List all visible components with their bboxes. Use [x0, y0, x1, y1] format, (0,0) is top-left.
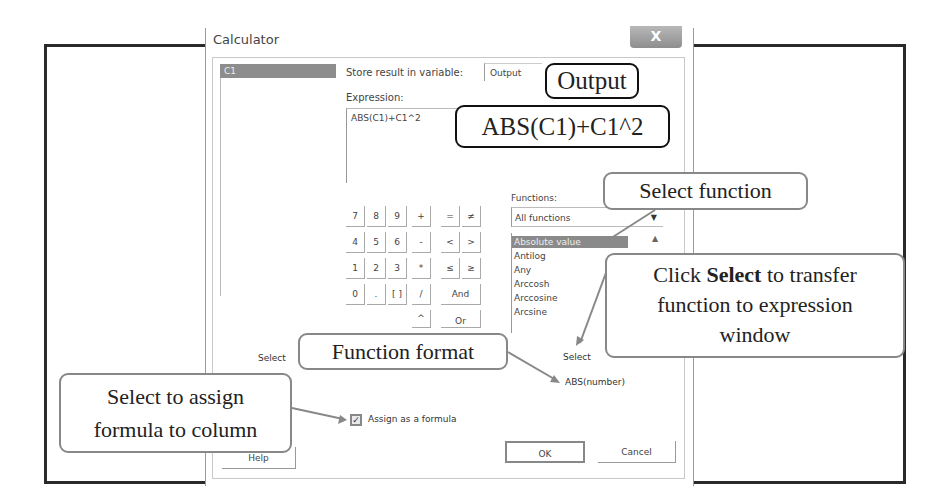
key-equals[interactable]: =	[441, 206, 460, 227]
function-item-arcsine[interactable]: Arcsine	[514, 306, 547, 318]
function-item-antilog[interactable]: Antilog	[514, 250, 546, 262]
chevron-down-icon: ▼	[651, 208, 657, 228]
dialog-title: Calculator	[213, 32, 279, 47]
key-divide[interactable]: /	[412, 284, 431, 305]
key-brackets[interactable]: [ ]	[388, 284, 407, 305]
callout-assign-line2: formula to column	[61, 413, 290, 446]
callout-function-format: Function format	[298, 333, 508, 370]
key-or[interactable]: Or	[441, 310, 481, 328]
key-5[interactable]: 5	[367, 232, 386, 253]
callout-assign-line1: Select to assign	[61, 380, 290, 413]
key-power[interactable]: ^	[412, 310, 431, 328]
callout-select-function: Select function	[603, 172, 808, 210]
key-less-than[interactable]: <	[441, 232, 460, 253]
variable-list[interactable]	[220, 64, 337, 296]
key-8[interactable]: 8	[367, 206, 386, 227]
store-result-input[interactable]: Output	[484, 63, 542, 81]
select-variable-button[interactable]: Select	[258, 353, 286, 363]
key-6[interactable]: 6	[388, 232, 407, 253]
assign-formula-checkbox[interactable]: ✓	[350, 414, 362, 426]
callout-click-select: Click Select to transfer function to exp…	[605, 253, 905, 358]
key-minus[interactable]: -	[412, 232, 431, 253]
expression-label: Expression:	[346, 92, 404, 103]
cancel-button[interactable]: Cancel	[598, 441, 676, 463]
variable-item-c1[interactable]: C1	[220, 64, 336, 78]
key-and[interactable]: And	[441, 284, 481, 305]
assign-formula-label: Assign as a formula	[368, 414, 456, 424]
checkmark-icon: ✓	[352, 415, 360, 425]
key-7[interactable]: 7	[346, 206, 365, 227]
functions-category-dropdown[interactable]: All functions ▼	[511, 207, 663, 227]
callout-assign-formula: Select to assign formula to column	[59, 373, 292, 453]
key-multiply[interactable]: *	[412, 258, 431, 279]
callout-click-select-line2: function to expression	[607, 290, 903, 320]
function-format-text: ABS(number)	[565, 377, 625, 387]
key-9[interactable]: 9	[388, 206, 407, 227]
functions-scroll-up-icon[interactable]: ▲	[652, 234, 658, 243]
function-item-arccosine[interactable]: Arccosine	[514, 292, 558, 304]
key-greater-than[interactable]: >	[462, 232, 481, 253]
key-0[interactable]: 0	[346, 284, 365, 305]
functions-category-value: All functions	[515, 213, 570, 223]
callout-output: Output	[545, 63, 639, 99]
function-item-arccosh[interactable]: Arccosh	[514, 278, 549, 290]
key-3[interactable]: 3	[388, 258, 407, 279]
callout-click-select-line3: window	[607, 320, 903, 350]
key-not-equal[interactable]: ≠	[462, 206, 481, 227]
select-function-button[interactable]: Select	[563, 352, 591, 362]
key-1[interactable]: 1	[346, 258, 365, 279]
function-item-any[interactable]: Any	[514, 264, 531, 276]
ok-button[interactable]: OK	[505, 441, 585, 463]
key-decimal[interactable]: .	[367, 284, 386, 305]
key-2[interactable]: 2	[367, 258, 386, 279]
functions-label: Functions:	[511, 193, 557, 203]
close-icon: X	[651, 28, 662, 44]
store-result-label: Store result in variable:	[346, 67, 463, 78]
key-plus[interactable]: +	[412, 206, 431, 227]
close-button[interactable]: X	[630, 26, 682, 48]
key-greater-equal[interactable]: ≥	[462, 258, 481, 279]
callout-expression: ABS(C1)+C1^2	[455, 105, 670, 148]
key-less-equal[interactable]: ≤	[441, 258, 460, 279]
function-item-absolute-value[interactable]: Absolute value	[512, 236, 628, 248]
callout-click-select-line1: Click Select to transfer	[607, 260, 903, 290]
key-4[interactable]: 4	[346, 232, 365, 253]
